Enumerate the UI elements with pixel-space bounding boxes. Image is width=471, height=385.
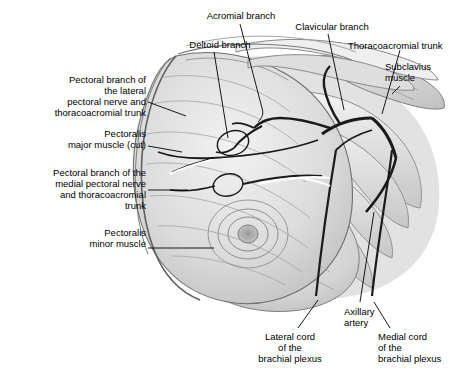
anatomy-figure: Acromial branch Clavicular branch Thorac…	[0, 0, 471, 385]
label-thoracoacromial-trunk: Thoracoacromial trunk	[348, 40, 468, 51]
label-acromial-branch: Acromial branch	[196, 10, 286, 21]
label-pectoralis-minor-muscle: Pectoralis minor muscle	[60, 227, 146, 249]
label-subclavius-muscle: Subclavius muscle	[385, 61, 465, 83]
label-deltoid-branch: Deltoid branch	[180, 39, 260, 50]
label-lateral-cord: Lateral cord of the brachial plexus	[244, 331, 336, 364]
label-pectoralis-major-cut: Pectoralis major muscle (cut)	[40, 128, 146, 150]
label-pectoral-branch-medial: Pectoral branch of the medial pectoral n…	[10, 167, 146, 211]
label-clavicular-branch: Clavicular branch	[285, 21, 379, 32]
label-pectoral-branch-lateral: Pectoral branch of the lateral pectoral …	[22, 74, 146, 118]
label-axillary-artery: Axillary artery	[344, 306, 404, 328]
label-medial-cord: Medial cord of the brachial plexus	[378, 331, 466, 364]
